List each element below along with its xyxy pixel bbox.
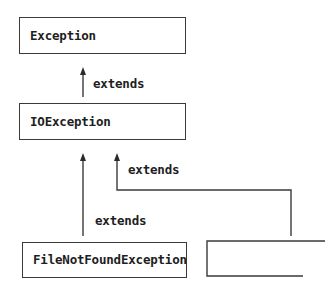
node-exception: Exception [19, 17, 186, 54]
node-label: IOException [30, 114, 111, 129]
node-label: FileNotFoundException [33, 252, 187, 267]
arrow-ioexception-to-exception [80, 67, 86, 97]
edge-label-extends: extends [128, 162, 179, 177]
arrowhead-icon [80, 153, 86, 161]
node-label: Exception [30, 28, 96, 43]
node-filenotfoundexception: FileNotFoundException [22, 242, 187, 278]
edge-label-extends: extends [93, 76, 144, 91]
arrowhead-icon [80, 67, 86, 75]
edge-label-extends: extends [95, 213, 146, 228]
node-ioexception: IOException [19, 103, 186, 140]
arrowhead-icon [114, 153, 120, 161]
arrow-filenotfound-to-ioexception [80, 153, 86, 236]
box-unnamed-outline [207, 241, 325, 276]
